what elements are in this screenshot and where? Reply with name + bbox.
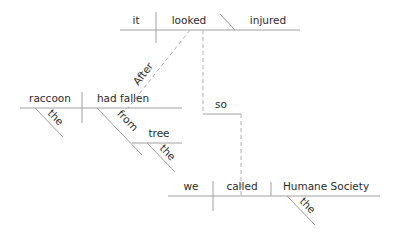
main-subject: it <box>132 14 139 26</box>
second-clause: we called Humane Society the <box>168 180 380 225</box>
preposition: from <box>115 107 141 133</box>
conjunction-so: so <box>215 98 227 110</box>
subordinate-subject: raccoon <box>29 92 71 104</box>
second-subject: we <box>183 180 198 192</box>
prep-object: tree <box>148 127 169 139</box>
sentence-diagram: it looked injured After raccoon had fall… <box>0 0 394 235</box>
main-clause: it looked injured <box>120 12 300 43</box>
direct-object: Humane Society <box>283 180 369 192</box>
main-verb: looked <box>172 14 207 26</box>
prep-object-modifier: the <box>158 142 179 163</box>
coordinating-connector: so <box>203 30 241 196</box>
second-verb: called <box>226 180 257 192</box>
conjunction-after: After <box>130 59 155 87</box>
subordinate-clause: raccoon had fallen the from tree the <box>20 92 182 172</box>
subject-modifier: the <box>46 107 67 128</box>
subordinate-verb: had fallen <box>97 92 149 104</box>
object-modifier: the <box>298 195 319 216</box>
predicate-adjective: injured <box>250 14 286 26</box>
predicate-adjective-divider <box>220 14 235 30</box>
